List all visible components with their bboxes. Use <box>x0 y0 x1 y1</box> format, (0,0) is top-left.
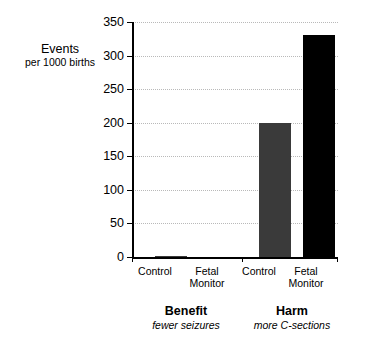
group-subtitle: more C-sections <box>232 319 352 332</box>
xtick-center <box>242 257 243 262</box>
category-label-line1: Fetal <box>195 265 218 277</box>
category-label-line1: Control <box>138 265 172 277</box>
category-label-line1: Control <box>242 265 276 277</box>
category-label-harm-fetal-monitor: Fetal Monitor <box>275 266 337 290</box>
x-axis-line <box>132 257 338 259</box>
plot-area: 350 300 250 200 150 100 50 0 <box>132 22 338 257</box>
ytick-label-100: 100 <box>103 184 124 197</box>
y-axis-line <box>132 22 134 257</box>
group-title: Benefit <box>126 304 246 319</box>
ytick-label-150: 150 <box>103 150 124 163</box>
bar-harm-control <box>259 123 291 257</box>
category-label-line2: Monitor <box>189 277 224 289</box>
group-subtitle: fewer seizures <box>126 319 246 332</box>
ytick-label-0: 0 <box>117 251 124 264</box>
ytick-label-250: 250 <box>103 83 124 96</box>
y-axis-title: Events per 1000 births <box>8 42 112 68</box>
y-axis-title-line1: Events <box>8 42 112 56</box>
gridline-350 <box>132 22 338 23</box>
category-label-line1: Fetal <box>294 265 317 277</box>
ytick-label-50: 50 <box>110 217 124 230</box>
group-label-harm: Harm more C-sections <box>232 304 352 332</box>
xtick-right <box>337 257 338 262</box>
group-label-benefit: Benefit fewer seizures <box>126 304 246 332</box>
ytick-label-350: 350 <box>103 16 124 29</box>
y-axis-title-line2: per 1000 births <box>8 56 112 68</box>
chart-figure: Events per 1000 births 350 300 250 200 1… <box>0 0 372 349</box>
group-title: Harm <box>232 304 352 319</box>
bar-harm-fetal-monitor <box>303 35 335 257</box>
category-label-line2: Monitor <box>288 277 323 289</box>
xtick-left <box>132 257 133 262</box>
ytick-label-300: 300 <box>103 49 124 62</box>
ytick-label-200: 200 <box>103 116 124 129</box>
